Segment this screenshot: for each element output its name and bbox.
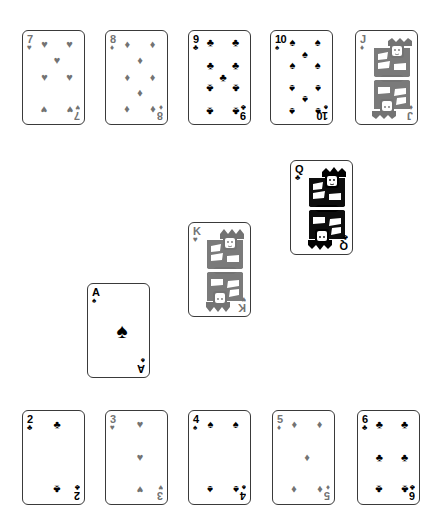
playing-card-7-hearts[interactable]: 7♥7♥♥♥♥♥♥♥♥ [22, 30, 85, 125]
card-pip-field: ♥♥♥♥♥♥♥ [36, 37, 78, 118]
card-pip-spades: ♠ [299, 49, 311, 60]
card-pip-diamonds: ♦ [121, 104, 133, 115]
card-pip-diamonds: ♦ [147, 39, 159, 50]
card-pip-clubs: ♣ [217, 72, 229, 83]
card-pip-clubs: ♣ [230, 83, 242, 94]
card-pip-spades: ♠ [204, 419, 216, 430]
card-pip-diamonds: ♦ [314, 419, 326, 430]
card-pip-hearts: ♥ [51, 55, 63, 66]
card-face: 2♣2♣♣♣ [23, 411, 84, 504]
card-pip-clubs: ♣ [373, 419, 385, 430]
card-pip-diamonds: ♦ [288, 484, 300, 495]
card-pip-hearts: ♥ [134, 419, 146, 430]
card-pip-clubs: ♣ [399, 452, 411, 463]
playing-card-a-spades[interactable]: A♠A♠♠ [87, 283, 150, 378]
playing-card-9-clubs[interactable]: 9♣9♣♣♣♣♣♣♣♣♣♣ [188, 30, 251, 125]
card-face: 3♥3♥♥♥♥ [106, 411, 167, 504]
playing-card-4-spades[interactable]: 4♠4♠♠♠♠♠ [188, 410, 251, 505]
card-pip-clubs: ♣ [230, 106, 242, 117]
card-pip-hearts: ♥ [64, 39, 76, 50]
card-pip-spades: ♠ [286, 83, 298, 94]
card-pip-field: ♥♥♥ [119, 417, 161, 498]
card-pip-diamonds: ♦ [121, 72, 133, 83]
court-figure-king-art [203, 228, 247, 313]
playing-card-6-clubs[interactable]: 6♣6♣♣♣♣♣♣♣ [357, 410, 420, 505]
card-pip-diamonds: ♦ [288, 419, 300, 430]
card-pip-clubs: ♣ [373, 484, 385, 495]
card-pip-clubs: ♣ [373, 452, 385, 463]
card-pip-clubs: ♣ [204, 60, 216, 71]
card-pip-clubs: ♣ [204, 83, 216, 94]
card-pip-spades: ♠ [312, 83, 324, 94]
card-face: 7♥7♥♥♥♥♥♥♥♥ [23, 31, 84, 124]
card-pip-clubs: ♣ [230, 37, 242, 48]
card-face: K♥K♥ [189, 223, 250, 316]
card-face: Q♣Q♣ [291, 161, 352, 254]
card-pip-clubs: ♣ [204, 106, 216, 117]
card-pip-spades: ♠ [204, 484, 216, 495]
card-pip-hearts: ♥ [38, 72, 50, 83]
card-pip-clubs: ♣ [230, 60, 242, 71]
court-figure-jack-art [370, 36, 414, 121]
card-pip-hearts: ♥ [134, 452, 146, 463]
card-face: 5♦5♦♦♦♦♦♦ [273, 411, 334, 504]
playing-card-j-diamonds[interactable]: J♦J♦ [355, 30, 418, 125]
card-pip-spades: ♠ [230, 484, 242, 495]
playing-card-k-hearts[interactable]: K♥K♥ [188, 222, 251, 317]
playing-card-q-clubs[interactable]: Q♣Q♣ [290, 160, 353, 255]
card-pip-spades: ♠ [312, 106, 324, 117]
card-face: 8♦8♦♦♦♦♦♦♦♦♦ [106, 31, 167, 124]
card-pip-hearts: ♥ [64, 72, 76, 83]
card-pip-field: ♣♣♣♣♣♣ [371, 417, 413, 498]
card-pip-field: ♣♣♣♣♣♣♣♣♣ [202, 37, 244, 118]
playing-card-3-hearts[interactable]: 3♥3♥♥♥♥ [105, 410, 168, 505]
card-pip-clubs: ♣ [399, 484, 411, 495]
card-face: A♠A♠♠ [88, 284, 149, 377]
card-pip-spades: ♠ [286, 37, 298, 48]
card-pip-clubs: ♣ [51, 484, 63, 495]
playing-card-2-clubs[interactable]: 2♣2♣♣♣ [22, 410, 85, 505]
card-pip-spades: ♠ [312, 60, 324, 71]
card-pip-field: ♦♦♦♦♦♦♦♦ [119, 37, 161, 118]
card-face: 6♣6♣♣♣♣♣♣♣ [358, 411, 419, 504]
card-face: J♦J♦ [356, 31, 417, 124]
card-pip-field: ♣♣ [36, 417, 78, 498]
card-pip-diamonds: ♦ [134, 88, 146, 99]
card-pip-spades: ♠ [286, 106, 298, 117]
card-pip-hearts: ♥ [38, 39, 50, 50]
card-pip-field: ♠♠♠♠♠♠♠♠♠♠ [284, 37, 326, 118]
card-pip-hearts: ♥ [64, 104, 76, 115]
card-table-canvas: 7♥7♥♥♥♥♥♥♥♥8♦8♦♦♦♦♦♦♦♦♦9♣9♣♣♣♣♣♣♣♣♣♣10♠1… [0, 0, 439, 509]
card-pip-clubs: ♣ [204, 37, 216, 48]
card-pip-field: ♦♦♦♦♦ [286, 417, 328, 498]
card-face: 10♠10♠♠♠♠♠♠♠♠♠♠♠ [271, 31, 332, 124]
card-pip-hearts: ♥ [134, 484, 146, 495]
card-pip-spades: ♠ [299, 94, 311, 105]
card-pip-field: ♠♠♠♠ [202, 417, 244, 498]
card-pip-spades: ♠ [312, 37, 324, 48]
card-pip-spades: ♠ [116, 325, 128, 336]
card-pip-diamonds: ♦ [147, 72, 159, 83]
card-pip-diamonds: ♦ [301, 452, 313, 463]
playing-card-8-diamonds[interactable]: 8♦8♦♦♦♦♦♦♦♦♦ [105, 30, 168, 125]
card-pip-hearts: ♥ [38, 104, 50, 115]
playing-card-5-diamonds[interactable]: 5♦5♦♦♦♦♦♦ [272, 410, 335, 505]
card-pip-spades: ♠ [286, 60, 298, 71]
card-pip-spades: ♠ [230, 419, 242, 430]
card-pip-diamonds: ♦ [121, 39, 133, 50]
card-pip-clubs: ♣ [399, 419, 411, 430]
court-figure-queen-art [305, 166, 349, 251]
card-pip-diamonds: ♦ [314, 484, 326, 495]
card-face: 9♣9♣♣♣♣♣♣♣♣♣♣ [189, 31, 250, 124]
card-face: 4♠4♠♠♠♠♠ [189, 411, 250, 504]
card-pip-field: ♠ [101, 290, 143, 371]
card-pip-clubs: ♣ [51, 419, 63, 430]
card-pip-diamonds: ♦ [147, 104, 159, 115]
playing-card-10-spades[interactable]: 10♠10♠♠♠♠♠♠♠♠♠♠♠ [270, 30, 333, 125]
card-pip-diamonds: ♦ [134, 55, 146, 66]
